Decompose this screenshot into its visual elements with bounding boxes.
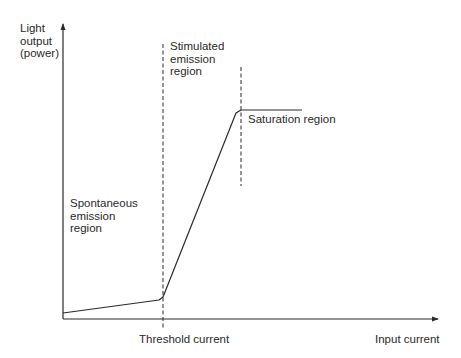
y-axis-label: Light output (power) bbox=[20, 22, 59, 60]
spontaneous-region-label: Spontaneous emission region bbox=[70, 197, 138, 235]
threshold-current-label: Threshold current bbox=[139, 333, 229, 346]
saturation-region-label: Saturation region bbox=[248, 113, 336, 126]
diagram-canvas bbox=[0, 0, 461, 358]
x-axis-label: Input current bbox=[375, 333, 440, 346]
stimulated-region-label: Stimulated emission region bbox=[170, 40, 224, 78]
